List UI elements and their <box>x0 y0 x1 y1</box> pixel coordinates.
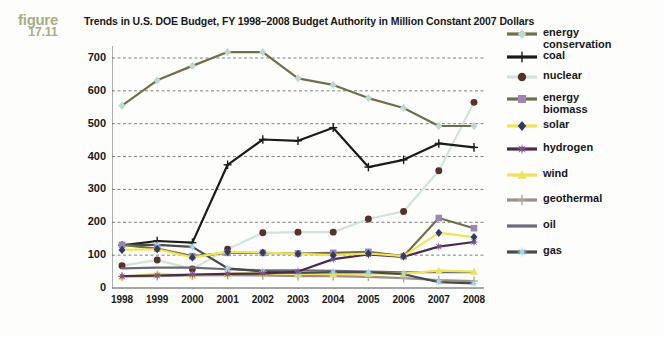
data-point-marker <box>188 242 197 251</box>
legend-item-solar[interactable]: solar <box>505 118 569 133</box>
legend-swatch-energy-conservation-icon <box>505 27 541 41</box>
data-point-marker <box>365 216 372 223</box>
y-axis-label: 200 <box>72 215 106 227</box>
legend-swatch-wind-icon <box>505 168 541 182</box>
series-line <box>122 128 474 246</box>
legend-label-line-1: coal <box>543 49 565 61</box>
data-point-marker <box>223 269 232 278</box>
x-axis-label: 1999 <box>137 294 177 305</box>
legend-label-solar: solar <box>541 118 569 130</box>
data-point-marker <box>518 73 526 81</box>
data-point-marker <box>518 29 526 39</box>
legend-label-line-1: oil <box>543 218 556 230</box>
data-point-marker <box>188 270 197 279</box>
y-axis-label: 300 <box>72 182 106 194</box>
x-axis-label: 2001 <box>208 294 248 305</box>
legend-swatch-oil-icon <box>505 219 541 233</box>
data-point-marker <box>435 167 442 174</box>
data-point-marker <box>400 208 407 215</box>
legend-label-line-1: energy <box>543 26 611 38</box>
chart-plot-area <box>112 44 484 289</box>
legend-swatch-nuclear-icon <box>505 70 541 84</box>
chart-title: Trends in U.S. DOE Budget, FY 1998–2008 … <box>84 15 504 27</box>
legend-label-gas: gas <box>541 244 562 256</box>
data-point-marker <box>517 247 528 258</box>
legend-item-nuclear[interactable]: nuclear <box>505 69 582 84</box>
legend-swatch-solar-icon <box>505 119 541 133</box>
legend-item-hydrogen[interactable]: hydrogen <box>505 141 593 156</box>
data-point-marker <box>330 229 337 236</box>
x-axis-label: 2006 <box>384 294 424 305</box>
data-point-marker <box>294 267 303 276</box>
data-point-marker <box>153 271 162 280</box>
x-axis-label: 2005 <box>348 294 388 305</box>
data-point-marker <box>224 48 231 56</box>
legend-label-nuclear: nuclear <box>541 69 582 81</box>
data-point-marker <box>471 225 478 232</box>
y-axis-label: 0 <box>72 281 106 293</box>
legend-label-line-1: nuclear <box>543 69 582 81</box>
legend-label-line-1: geothermal <box>543 192 602 204</box>
data-point-marker <box>434 278 443 287</box>
data-point-marker <box>118 272 127 281</box>
legend-item-geothermal[interactable]: geothermal <box>505 192 602 207</box>
legend-label-biomass: energybiomass <box>541 91 588 115</box>
data-point-marker <box>295 229 302 236</box>
legend-label-hydrogen: hydrogen <box>541 141 593 153</box>
data-point-marker <box>294 137 302 146</box>
legend-label-geothermal: geothermal <box>541 192 602 204</box>
data-point-marker <box>435 122 442 130</box>
legend-swatch-gas-icon <box>505 245 541 259</box>
x-axis-label: 2004 <box>313 294 353 305</box>
legend-label-wind: wind <box>541 167 568 179</box>
legend-label-line-1: solar <box>543 118 569 130</box>
legend-item-biomass[interactable]: energybiomass <box>505 91 588 115</box>
legend-label-oil: oil <box>541 218 556 230</box>
legend-label-coal: coal <box>541 49 565 61</box>
y-axis-label: 600 <box>72 84 106 96</box>
data-point-marker <box>518 95 526 103</box>
y-axis-label: 500 <box>72 117 106 129</box>
data-point-marker <box>400 104 407 112</box>
data-point-marker <box>517 144 528 155</box>
data-point-marker <box>330 81 337 89</box>
data-point-marker <box>471 99 478 106</box>
data-point-marker <box>471 122 478 130</box>
line-chart <box>112 44 484 289</box>
data-point-marker <box>329 268 338 277</box>
legend-label-line-1: gas <box>543 244 562 256</box>
legend-label-line-1: wind <box>543 167 568 179</box>
legend-swatch-geothermal-icon <box>505 193 541 207</box>
data-point-marker <box>365 94 372 102</box>
legend-swatch-biomass-icon <box>505 92 541 106</box>
data-point-marker <box>470 143 478 152</box>
legend-label-line-2: biomass <box>543 103 588 115</box>
legend-item-wind[interactable]: wind <box>505 167 568 182</box>
data-point-marker <box>258 269 267 278</box>
data-point-marker <box>154 257 161 264</box>
x-axis-label: 2007 <box>419 294 459 305</box>
legend-item-gas[interactable]: gas <box>505 244 562 259</box>
y-axis-label: 700 <box>72 51 106 63</box>
data-point-marker <box>434 242 443 251</box>
figure-tag: figure 17.11 <box>8 12 68 38</box>
data-point-marker <box>517 52 527 62</box>
data-point-marker <box>470 279 479 288</box>
legend-label-line-1: hydrogen <box>543 141 593 153</box>
legend-item-oil[interactable]: oil <box>505 218 556 233</box>
legend-label-line-1: energy <box>543 91 588 103</box>
x-axis-label: 2002 <box>243 294 283 305</box>
data-point-marker <box>364 268 373 277</box>
y-axis-label: 100 <box>72 248 106 260</box>
data-point-marker <box>518 121 526 131</box>
series-energy-conservation <box>119 48 478 130</box>
legend-swatch-coal-icon <box>505 50 541 64</box>
data-point-marker <box>189 62 196 70</box>
x-axis-label: 2003 <box>278 294 318 305</box>
legend-item-coal[interactable]: coal <box>505 49 565 64</box>
legend-swatch-hydrogen-icon <box>505 142 541 156</box>
x-axis-label: 1998 <box>102 294 142 305</box>
series-hydrogen <box>118 238 479 281</box>
data-point-marker <box>259 229 266 236</box>
legend-item-energy-conservation[interactable]: energyconservation <box>505 26 611 50</box>
